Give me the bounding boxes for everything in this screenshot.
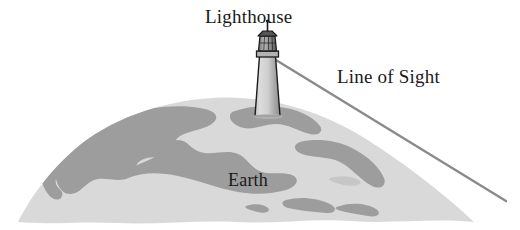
lighthouse-gallery: [257, 51, 279, 57]
lighthouse-horizon-diagram: [0, 0, 520, 230]
lighthouse: [253, 19, 283, 119]
lighthouse-label: Lighthouse: [205, 6, 293, 28]
lighthouse-lantern-room: [259, 36, 277, 51]
earth-label: Earth: [228, 170, 268, 191]
line-of-sight-label: Line of Sight: [337, 66, 440, 88]
lighthouse-base-shadow: [253, 114, 283, 119]
lighthouse-tower: [255, 56, 280, 116]
earth-globe: [18, 98, 474, 224]
